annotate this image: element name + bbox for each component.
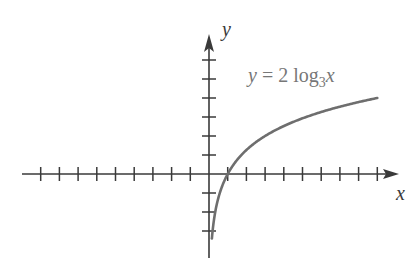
eq-x: x (325, 64, 335, 86)
log-curve (212, 98, 377, 238)
graph-plot: y x y = 2 log3x (0, 0, 412, 266)
y-axis-label: y (220, 18, 231, 41)
curve-path (212, 98, 377, 238)
equation-label: y = 2 log3x (246, 64, 335, 90)
x-axis-label: x (395, 182, 405, 204)
eq-subscript: 3 (319, 75, 326, 90)
eq-body: = 2 log (257, 64, 319, 87)
eq-y: y (246, 64, 257, 87)
axes (22, 34, 399, 258)
